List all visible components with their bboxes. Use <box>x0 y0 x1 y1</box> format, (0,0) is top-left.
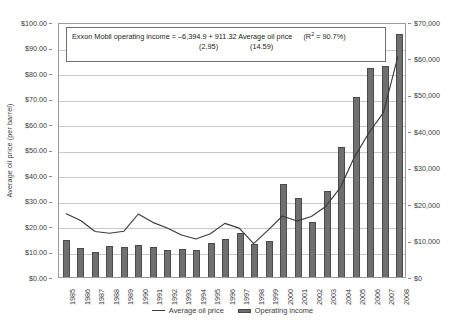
legend-label: Average oil price <box>169 306 224 315</box>
y-axis-left-tick-label: $0.00 <box>29 274 47 283</box>
y-axis-left-tick-mark <box>49 125 52 126</box>
x-axis-tick-label: 1989 <box>126 289 135 305</box>
x-axis-tick-label: 1995 <box>213 289 222 305</box>
y-axis-right-tick-mark <box>408 242 411 243</box>
oil-price-vs-operating-income-chart: Average oil price (per barrel) Exxon ope… <box>0 0 465 324</box>
x-axis-tick-label: 1996 <box>228 289 237 305</box>
x-axis-year-labels: 1985198619871988198919901991199219931994… <box>58 280 406 308</box>
y-axis-left-tick-label: $40.00 <box>25 172 47 181</box>
r-squared-annotation: (R2 = 90.7%) <box>303 32 345 41</box>
y-axis-left-tick-mark <box>49 100 52 101</box>
y-axis-left-tick-label: $50.00 <box>25 146 47 155</box>
y-axis-left-tick-label: $30.00 <box>25 197 47 206</box>
x-axis-tick-label: 1994 <box>199 289 208 305</box>
y-axis-left-tick-mark <box>49 176 52 177</box>
x-axis-tick-label: 1993 <box>184 289 193 305</box>
y-axis-left-tick-label: $90.00 <box>25 44 47 53</box>
x-axis-tick-label: 1991 <box>155 289 164 305</box>
y-axis-right-tick-mark <box>408 205 411 206</box>
y-axis-right-tick-mark <box>408 132 411 133</box>
y-axis-right-tick-label: $10,000 <box>414 237 440 246</box>
x-axis-tick-label: 2008 <box>402 289 411 305</box>
legend-line-swatch-icon <box>152 310 165 311</box>
legend-item[interactable]: Average oil price <box>152 306 224 315</box>
chart-legend: Average oil priceOperating income <box>0 306 465 315</box>
y-axis-left-tick-mark <box>49 227 52 228</box>
y-axis-left-tick-mark <box>49 74 52 75</box>
x-axis-tick-label: 2001 <box>300 289 309 305</box>
y-axis-left-tick-label: $80.00 <box>25 70 47 79</box>
y-axis-left-tick-mark <box>49 253 52 254</box>
x-axis-tick-label: 1990 <box>141 289 150 305</box>
y-axis-right-tick-mark <box>408 23 411 24</box>
x-axis-tick-label: 2005 <box>358 289 367 305</box>
y-axis-left: $0.00$10.00$20.00$30.00$40.00$50.00$60.0… <box>0 0 54 324</box>
std-error-slope: (14.59) <box>250 42 273 51</box>
y-axis-left-tick-label: $20.00 <box>25 223 47 232</box>
x-axis-tick-label: 2007 <box>387 289 396 305</box>
y-axis-left-tick-label: $70.00 <box>25 95 47 104</box>
legend-label: Operating income <box>255 306 313 315</box>
y-axis-left-tick-mark <box>49 202 52 203</box>
y-axis-right-tick-mark <box>408 59 411 60</box>
x-axis-tick-label: 2006 <box>373 289 382 305</box>
y-axis-right-tick-mark <box>408 169 411 170</box>
legend-bar-swatch-icon <box>238 309 251 313</box>
x-axis-tick-label: 1987 <box>97 289 106 305</box>
y-axis-right-tick-label: $40,000 <box>414 128 440 137</box>
y-axis-left-tick-label: $10.00 <box>25 248 47 257</box>
y-axis-left-tick-mark <box>49 23 52 24</box>
y-axis-left-tick-label: $100.00 <box>21 19 47 28</box>
y-axis-right-tick-label: $50,000 <box>414 91 440 100</box>
x-axis-tick-label: 1988 <box>112 289 121 305</box>
y-axis-right-tick-mark <box>408 278 411 279</box>
y-axis-right: $0$10,000$20,000$30,000$40,000$50,000$60… <box>407 0 463 324</box>
regression-equation-formula: Exxon Mobil operating income = –6,394.9 … <box>72 32 292 41</box>
y-axis-right-tick-label: $70,000 <box>414 19 440 28</box>
x-axis-tick-label: 1998 <box>257 289 266 305</box>
y-axis-right-tick-label: $30,000 <box>414 164 440 173</box>
x-axis-tick-label: 1986 <box>83 289 92 305</box>
legend-item[interactable]: Operating income <box>238 306 313 315</box>
y-axis-right-tick-label: $0 <box>414 274 422 283</box>
x-axis-tick-label: 1999 <box>271 289 280 305</box>
x-axis-tick-label: 1985 <box>68 289 77 305</box>
regression-equation-text: Exxon Mobil operating income = –6,394.9 … <box>72 32 381 41</box>
y-axis-left-tick-mark <box>49 49 52 50</box>
y-axis-right-tick-mark <box>408 96 411 97</box>
x-axis-tick-label: 1992 <box>170 289 179 305</box>
y-axis-left-tick-mark <box>49 278 52 279</box>
x-axis-tick-label: 1997 <box>242 289 251 305</box>
x-axis-tick-label: 2002 <box>315 289 324 305</box>
x-axis-tick-label: 2000 <box>286 289 295 305</box>
x-axis-tick-label: 2003 <box>329 289 338 305</box>
y-axis-right-tick-label: $20,000 <box>414 201 440 210</box>
y-axis-left-tick-mark <box>49 151 52 152</box>
std-error-intercept: (2.95) <box>199 42 218 51</box>
y-axis-left-tick-label: $60.00 <box>25 121 47 130</box>
x-axis-tick-label: 2004 <box>344 289 353 305</box>
regression-equation-box: Exxon Mobil operating income = –6,394.9 … <box>66 27 386 62</box>
y-axis-right-tick-label: $60,000 <box>414 55 440 64</box>
